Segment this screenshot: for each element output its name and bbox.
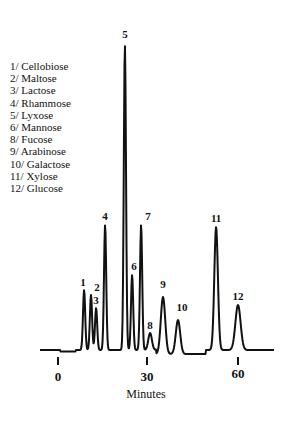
tick-label-60: 60: [232, 366, 245, 381]
peak-label-10: 10: [177, 301, 189, 313]
peak-label-8: 8: [147, 319, 153, 331]
tick-label-30: 30: [141, 369, 154, 384]
peak-label-4: 4: [102, 210, 108, 222]
chromatogram-trace: [40, 46, 274, 354]
tick-label-0: 0: [55, 369, 62, 384]
peak-labels: 123456789101112: [80, 28, 244, 331]
chromatogram-plot: 123456789101112 0 30 60 Minutes: [0, 0, 294, 422]
peak-label-1: 1: [80, 276, 86, 288]
peak-label-11: 11: [211, 212, 221, 224]
peak-label-9: 9: [160, 278, 166, 290]
peak-label-3: 3: [93, 294, 99, 306]
peak-label-2: 2: [94, 281, 100, 293]
peak-label-5: 5: [122, 28, 128, 40]
x-axis: 0 30 60 Minutes: [55, 357, 245, 401]
peak-label-12: 12: [233, 290, 245, 302]
x-axis-label: Minutes: [126, 387, 166, 401]
peak-label-7: 7: [145, 210, 151, 222]
peak-label-6: 6: [131, 260, 137, 272]
